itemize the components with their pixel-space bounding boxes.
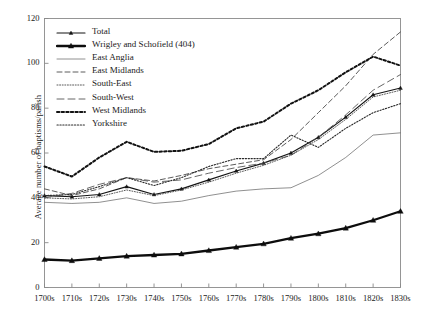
legend-swatch-icon bbox=[56, 104, 86, 116]
legend-item-east-anglia[interactable]: East Anglia bbox=[56, 50, 195, 63]
series-wrigley-and-schofield-404 bbox=[42, 209, 403, 263]
chart-legend: TotalWrigley and Schofield (404)East Ang… bbox=[56, 24, 195, 130]
legend-item-yorkshire[interactable]: Yorkshire bbox=[56, 116, 195, 129]
legend-swatch-icon bbox=[56, 77, 86, 89]
x-tick-label: 1830s bbox=[384, 293, 418, 303]
legend-swatch-icon bbox=[56, 64, 86, 76]
y-tick-label: 80 bbox=[10, 102, 40, 112]
legend-item-label: South-West bbox=[92, 91, 134, 103]
legend-item-wrigley-and-schofield-404[interactable]: Wrigley and Schofield (404) bbox=[56, 37, 195, 50]
legend-item-east-midlands[interactable]: East Midlands bbox=[56, 64, 195, 77]
y-tick-label: 40 bbox=[10, 192, 40, 202]
y-tick-label: 60 bbox=[10, 147, 40, 157]
y-tick-label: 120 bbox=[10, 13, 40, 23]
legend-item-label: East Anglia bbox=[92, 51, 134, 63]
y-axis-label: Average number of baptisms/parish bbox=[33, 67, 43, 247]
legend-swatch-icon bbox=[56, 91, 86, 103]
series-east-anglia bbox=[45, 133, 401, 204]
legend-item-south-east[interactable]: South-East bbox=[56, 77, 195, 90]
legend-item-label: Total bbox=[92, 25, 110, 37]
legend-item-label: Wrigley and Schofield (404) bbox=[92, 38, 195, 50]
legend-item-total[interactable]: Total bbox=[56, 24, 195, 37]
legend-swatch-icon bbox=[56, 117, 86, 129]
legend-item-label: East Midlands bbox=[92, 64, 144, 76]
legend-item-west-midlands[interactable]: West Midlands bbox=[56, 103, 195, 116]
legend-swatch-icon bbox=[56, 25, 86, 37]
legend-item-label: Yorkshire bbox=[92, 117, 127, 129]
legend-swatch-icon bbox=[56, 38, 86, 50]
y-tick-label: 100 bbox=[10, 57, 40, 67]
y-tick-label: 20 bbox=[10, 237, 40, 247]
legend-item-label: South-East bbox=[92, 77, 132, 89]
chart-figure: Average number of baptisms/parish 020406… bbox=[0, 0, 422, 320]
y-tick-label: 0 bbox=[10, 282, 40, 292]
legend-item-south-west[interactable]: South-West bbox=[56, 90, 195, 103]
legend-item-label: West Midlands bbox=[92, 104, 146, 116]
legend-swatch-icon bbox=[56, 51, 86, 63]
